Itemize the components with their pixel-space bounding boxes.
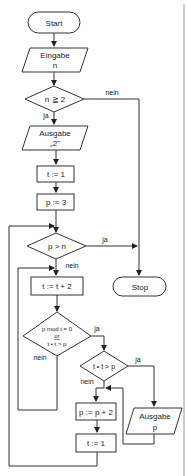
output-2: Ausgabe „2" bbox=[22, 126, 88, 150]
start-terminal: Start bbox=[28, 12, 80, 33]
input-n-line1: Eingabe bbox=[40, 51, 70, 60]
decision-mod-line2: or bbox=[54, 333, 59, 339]
decision-tt-gt-p-label: t • t > p bbox=[93, 363, 115, 371]
output-2-line1: Ausgabe bbox=[39, 129, 71, 138]
assign-p-plus-2-label: p := p + 2 bbox=[79, 408, 113, 417]
label-ja-2: ja bbox=[101, 236, 108, 244]
label-nein-3: nein bbox=[33, 354, 46, 361]
output-p-line2: p bbox=[153, 423, 158, 432]
assign-t-1-bottom-label: t := 1 bbox=[87, 439, 106, 448]
assign-t-plus-2-label: t := t + 2 bbox=[42, 282, 72, 291]
output-p: Ausgabe p bbox=[126, 408, 182, 434]
label-ja-3: ja bbox=[93, 325, 100, 333]
flowchart-canvas: Start Eingabe n n ≧ 2 nein ja Ausgabe „2… bbox=[0, 0, 187, 476]
output-2-line2: „2" bbox=[50, 139, 60, 148]
decision-mod-line1: p mod t = 0 bbox=[42, 326, 73, 332]
assign-p-3-label: p := 3 bbox=[46, 198, 67, 207]
label-nein-4: nein bbox=[80, 378, 93, 385]
decision-p-gt-n: p > n bbox=[27, 233, 86, 259]
assign-p-plus-2: p := p + 2 bbox=[76, 403, 116, 420]
label-nein-2: nein bbox=[65, 262, 78, 269]
decision-n-ge-2: n ≧ 2 bbox=[25, 86, 84, 112]
assign-t-1-bottom: t := 1 bbox=[76, 434, 116, 452]
input-n-line2: n bbox=[53, 61, 57, 70]
decision-mod-line3: t • t > p bbox=[48, 341, 68, 347]
decision-mod: p mod t = 0 or t • t > p bbox=[23, 312, 91, 356]
assign-t-plus-2: t := t + 2 bbox=[31, 277, 83, 295]
decision-tt-gt-p: t • t > p bbox=[80, 351, 128, 381]
assign-t-1-label: t := 1 bbox=[47, 170, 66, 179]
decision-n-ge-2-label: n ≧ 2 bbox=[45, 95, 66, 104]
assign-p-3: p := 3 bbox=[37, 194, 74, 210]
decision-p-gt-n-label: p > n bbox=[48, 242, 66, 251]
input-n: Eingabe n bbox=[22, 48, 88, 72]
label-ja-4: ja bbox=[134, 356, 141, 364]
assign-t-1: t := 1 bbox=[37, 166, 74, 182]
output-p-line1: Ausgabe bbox=[139, 412, 171, 421]
label-nein-1: nein bbox=[105, 89, 118, 96]
stop-label: Stop bbox=[132, 283, 149, 292]
label-ja-1: ja bbox=[42, 112, 49, 120]
start-label: Start bbox=[46, 19, 64, 28]
stop-terminal: Stop bbox=[113, 277, 166, 296]
